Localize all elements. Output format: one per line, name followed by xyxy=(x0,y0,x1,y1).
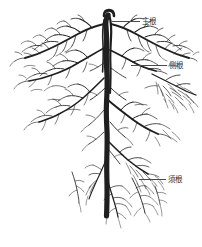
root-system-figure: 主根 侧根 须根 xyxy=(0,0,202,247)
callout-label-fibrous-root: 须根 xyxy=(168,175,182,184)
callout-lateral-root: 侧根 xyxy=(131,61,183,70)
callout-taproot: 主根 xyxy=(112,17,156,26)
leader-line-fibrous-root xyxy=(139,179,166,180)
leader-line-lateral-root xyxy=(131,65,167,66)
root-system-illustration xyxy=(0,0,202,247)
callout-label-lateral-root: 侧根 xyxy=(169,61,183,70)
callout-fibrous-root: 须根 xyxy=(139,175,182,184)
callout-label-taproot: 主根 xyxy=(142,17,156,26)
leader-line-taproot xyxy=(112,21,140,22)
